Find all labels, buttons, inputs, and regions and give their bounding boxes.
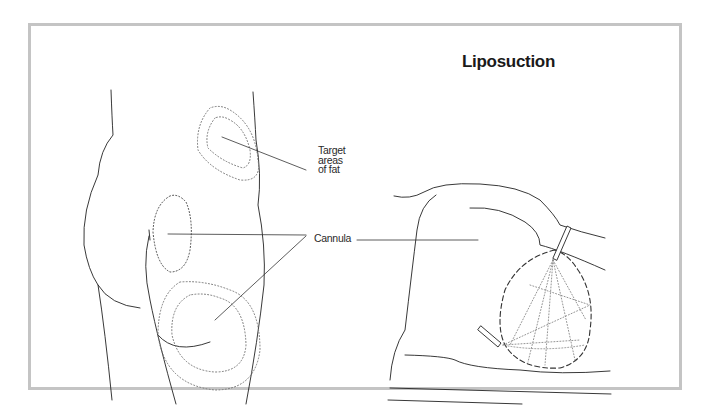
liposuction-illustration bbox=[0, 0, 707, 407]
cannula-instruments[interactable] bbox=[478, 226, 571, 347]
cannula-tunnels bbox=[503, 260, 590, 365]
fat-pocket-outline bbox=[500, 250, 591, 368]
figure-title: Liposuction bbox=[462, 52, 555, 72]
rear-view-figure bbox=[84, 90, 265, 404]
target-fat-regions bbox=[153, 106, 260, 390]
side-view-figure bbox=[388, 184, 611, 404]
target-areas-label: Target areas of fat bbox=[318, 146, 345, 175]
target-label-line-3: of fat bbox=[318, 165, 345, 175]
cannula-label: Cannula bbox=[314, 234, 351, 244]
